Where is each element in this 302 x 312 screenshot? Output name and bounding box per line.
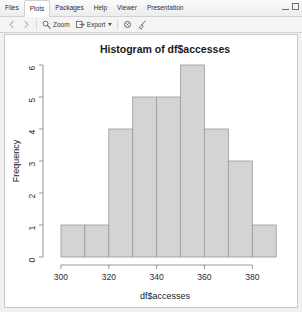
x-axis-label: df$accesses [140,291,191,301]
pane-tab-strip: Files Plots Packages Help Viewer Present… [0,0,302,17]
arrow-right-icon [22,20,31,29]
histogram-plot: Histogram of df$accesses0123456300320340… [5,35,297,307]
maximize-icon[interactable] [292,3,299,10]
zoom-button[interactable]: Zoom [39,18,73,31]
remove-plot-button[interactable] [120,18,135,31]
y-axis-label: Frequency [11,139,21,182]
minimize-icon[interactable] [282,9,289,10]
remove-circle-icon [123,20,132,29]
histogram-bar [181,65,205,257]
plot-canvas[interactable]: Histogram of df$accesses0123456300320340… [4,34,298,308]
histogram-bar [157,97,181,257]
x-axis-tick-label: 320 [102,272,116,282]
histogram-bar [252,225,276,257]
y-axis-tick-label: 3 [27,162,37,167]
export-icon [76,20,85,29]
magnifier-icon [42,20,51,29]
chart-title: Histogram of df$accesses [100,43,230,55]
next-plot-button[interactable] [19,18,34,31]
tab-packages[interactable]: Packages [50,0,89,16]
histogram-bar [109,129,133,257]
toolbar-separator [36,20,37,30]
arrow-left-icon [7,20,16,29]
tab-presentation[interactable]: Presentation [142,0,189,16]
x-axis-tick-label: 300 [54,272,68,282]
chevron-down-icon[interactable] [108,23,112,26]
tab-viewer[interactable]: Viewer [112,0,142,16]
y-axis-tick-label: 4 [27,130,37,135]
y-axis-tick-label: 2 [27,194,37,199]
clear-all-plots-button[interactable] [135,18,150,31]
x-axis-tick-label: 380 [245,272,259,282]
window-controls [282,3,299,10]
histogram-bar [85,225,109,257]
export-button[interactable]: Export [73,18,116,31]
histogram-bar [61,225,85,257]
tab-files[interactable]: Files [0,0,24,16]
x-axis-tick-label: 340 [150,272,164,282]
histogram-bar [133,97,157,257]
histogram-bar [204,129,228,257]
y-axis-tick-label: 6 [27,66,37,71]
x-axis-tick-label: 360 [197,272,211,282]
y-axis-tick-label: 1 [27,226,37,231]
broom-icon [138,20,147,30]
tab-plots[interactable]: Plots [24,0,50,17]
y-axis-tick-label: 5 [27,98,37,103]
histogram-bar [228,161,252,257]
tab-help[interactable]: Help [89,0,112,16]
y-axis-tick-label: 0 [27,258,37,263]
previous-plot-button[interactable] [4,18,19,31]
toolbar-separator-2 [117,20,118,30]
plots-pane: Files Plots Packages Help Viewer Present… [0,0,302,312]
zoom-label: Zoom [53,21,70,28]
plots-toolbar: Zoom Export [0,17,302,33]
export-label: Export [87,21,106,28]
